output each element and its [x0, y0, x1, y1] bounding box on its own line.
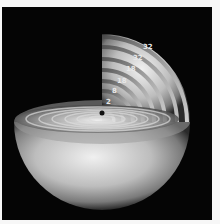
nested-shells-illustration: 2 8 18 18 32 32	[2, 7, 212, 220]
shell-label-1: 2	[106, 98, 111, 106]
shell-label-2: 8	[112, 87, 117, 95]
shell-label-3: 18	[117, 77, 127, 85]
nucleus	[100, 111, 105, 116]
shell-label-5: 32	[133, 54, 143, 62]
shell-label-4: 18	[126, 65, 136, 73]
horizontal-cut-face	[15, 105, 179, 133]
shell-label-6: 32	[143, 43, 153, 51]
figure-panel: 2 8 18 18 32 32	[2, 7, 212, 220]
